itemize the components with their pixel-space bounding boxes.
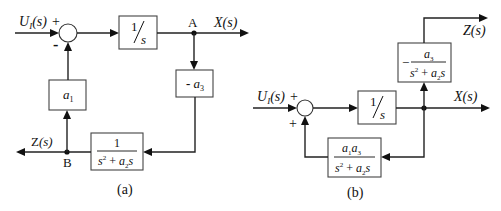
arrowhead-icon bbox=[479, 14, 488, 22]
integrator-den-a: s bbox=[141, 32, 146, 47]
arrowhead-icon bbox=[143, 148, 152, 156]
plant-num-a: 1 bbox=[114, 136, 120, 150]
arrowhead-icon bbox=[110, 29, 119, 37]
integrator-block-b bbox=[358, 91, 396, 124]
integrator-num-b: 1 bbox=[370, 94, 377, 109]
sum-sign-plus-feedback-b: + bbox=[289, 116, 297, 131]
summing-junction-a bbox=[59, 24, 77, 42]
arrowhead-icon bbox=[349, 104, 358, 112]
input-label-b: UI(s) bbox=[257, 89, 285, 106]
output-x-label-a: X(s) bbox=[213, 15, 238, 31]
wire-feedback-to-sum-b bbox=[305, 124, 328, 157]
block-diagrams: UI(s) + - 1 s A X(s) - a3 1 s2 + a2s bbox=[0, 0, 501, 211]
arrowhead-icon bbox=[190, 61, 198, 70]
diagram-b: UI(s) + + 1 s X(s) − a3 s2 + a2s Z(s) bbox=[253, 14, 490, 201]
sum-sign-plus-a: + bbox=[52, 14, 60, 29]
output-x-label-b: X(s) bbox=[453, 89, 478, 105]
sum-sign-plus-input-b: + bbox=[290, 89, 298, 104]
node-a-label: A bbox=[188, 15, 198, 30]
z-block-sign: − bbox=[402, 55, 409, 70]
input-label-a: UI(s) bbox=[19, 14, 47, 31]
output-z-label-a: Z(s) bbox=[31, 134, 53, 149]
arrowhead-icon bbox=[288, 104, 297, 112]
arrowhead-icon bbox=[481, 104, 490, 112]
wire-gain-a3-to-plant bbox=[151, 97, 195, 152]
diagram-a: UI(s) + - 1 s A X(s) - a3 1 s2 + a2s bbox=[15, 14, 249, 198]
sum-sign-minus-a: - bbox=[53, 36, 58, 53]
arrowhead-icon bbox=[420, 82, 428, 91]
caption-b: (b) bbox=[347, 185, 364, 201]
integrator-block-a bbox=[119, 16, 157, 49]
integrator-num-a: 1 bbox=[131, 19, 138, 34]
node-b-label: B bbox=[63, 155, 72, 170]
arrowhead-icon bbox=[63, 110, 71, 119]
summing-junction-b bbox=[297, 100, 313, 116]
arrowhead-icon bbox=[240, 29, 249, 37]
integrator-den-b: s bbox=[380, 107, 385, 122]
arrowhead-icon bbox=[381, 153, 390, 161]
arrowhead-icon bbox=[16, 148, 25, 156]
caption-a: (a) bbox=[117, 182, 133, 198]
arrowhead-icon bbox=[64, 42, 72, 51]
arrowhead-icon bbox=[301, 116, 309, 125]
output-z-label-b: Z(s) bbox=[463, 23, 486, 39]
